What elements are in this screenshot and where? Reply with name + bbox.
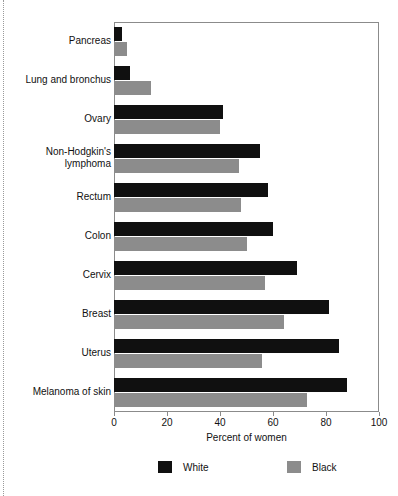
bar-white bbox=[114, 66, 130, 80]
bar-white bbox=[114, 144, 260, 158]
bar-black bbox=[114, 315, 284, 329]
legend-label-white: White bbox=[183, 462, 209, 473]
x-axis-title: Percent of women bbox=[114, 432, 379, 443]
bar-white bbox=[114, 378, 347, 392]
x-tick-mark bbox=[326, 412, 327, 416]
bar-black bbox=[114, 393, 307, 407]
bar-white bbox=[114, 339, 339, 353]
bar-group bbox=[0, 261, 398, 290]
x-tick-label: 60 bbox=[253, 417, 293, 428]
bar-black bbox=[114, 81, 151, 95]
legend-swatch-black bbox=[287, 461, 301, 473]
bar-black bbox=[114, 198, 241, 212]
bar-group bbox=[0, 378, 398, 407]
bar-group bbox=[0, 300, 398, 329]
x-tick-mark bbox=[379, 412, 380, 416]
legend-item-white: White bbox=[158, 461, 209, 473]
bar-white bbox=[114, 222, 273, 236]
legend-label-black: Black bbox=[312, 462, 336, 473]
bar-group bbox=[0, 339, 398, 368]
x-tick-mark bbox=[220, 412, 221, 416]
x-tick-label: 40 bbox=[200, 417, 240, 428]
bar-group bbox=[0, 222, 398, 251]
bar-black bbox=[114, 354, 262, 368]
bar-black bbox=[114, 276, 265, 290]
x-tick-mark bbox=[167, 412, 168, 416]
bar-group bbox=[0, 105, 398, 134]
bar-black bbox=[114, 237, 247, 251]
chart-legend: White Black bbox=[114, 461, 379, 477]
bar-group bbox=[0, 144, 398, 173]
bar-chart-figure: PancreasLung and bronchusOvaryNon-Hodgki… bbox=[0, 0, 398, 496]
bar-group bbox=[0, 183, 398, 212]
bar-group bbox=[0, 66, 398, 95]
legend-item-black: Black bbox=[287, 461, 336, 473]
bar-black bbox=[114, 120, 220, 134]
x-tick-label: 80 bbox=[306, 417, 346, 428]
bar-black bbox=[114, 159, 239, 173]
bar-black bbox=[114, 42, 127, 56]
x-tick-mark bbox=[273, 412, 274, 416]
x-tick-label: 20 bbox=[147, 417, 187, 428]
x-tick-label: 0 bbox=[94, 417, 134, 428]
bar-white bbox=[114, 27, 122, 41]
x-tick-label: 100 bbox=[359, 417, 398, 428]
bar-white bbox=[114, 261, 297, 275]
bar-white bbox=[114, 105, 223, 119]
legend-swatch-white bbox=[158, 461, 172, 473]
bar-white bbox=[114, 300, 329, 314]
bar-white bbox=[114, 183, 268, 197]
x-tick-mark bbox=[114, 412, 115, 416]
bar-group bbox=[0, 27, 398, 56]
